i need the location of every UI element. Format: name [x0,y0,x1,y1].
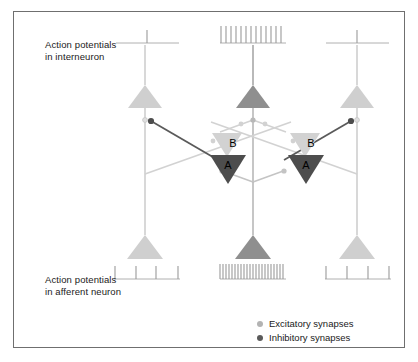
excitatory-dot-icon [257,321,263,327]
legend-item-excitatory: Excitatory synapses [257,318,353,330]
excitatory-synapse-dot-center-left [250,117,255,122]
excitatory-synapse-dot-onto-b-left [211,139,216,144]
excitatory-synapse-dot-center-branch-right [263,122,268,127]
excitatory-synapse-dot-center-branch-left [239,122,244,127]
inhibitory-synapse-dot-right [348,118,354,124]
interneuron-soma-center [236,85,270,108]
figure-frame: B B A A [13,11,405,348]
spike-train-interneuron-center [220,26,286,43]
spike-train-afferent-left [114,266,180,279]
spike-train-interneuron-left [116,30,179,43]
excitatory-link-afferent-center-to-a-right [253,170,286,182]
excitatory-link-center-to-b-left [220,120,253,132]
afferent-soma-left [127,235,163,259]
afferent-soma-right [339,235,375,259]
spike-train-interneuron-right [326,30,389,43]
interneuron-soma-right [340,85,374,108]
legend-item-inhibitory: Inhibitory synapses [257,332,353,344]
cell-b-left-body [212,133,242,157]
afferent-soma-center [235,235,271,259]
excitatory-synapse-dot-right-axon [355,118,360,123]
inhibitory-link-left-to-left-a [151,121,218,160]
spike-train-afferent-center [220,264,286,279]
afferent-row-label: Action potentials in afferent neuron [45,274,121,297]
cell-b-right-label: B [307,137,314,149]
cell-a-right-label: A [302,159,310,171]
inhibitory-synapse-dot-left [148,118,154,124]
interneuron-row-label: Action potentials in interneuron [45,39,116,62]
legend-label-excitatory: Excitatory synapses [269,318,353,330]
spike-train-afferent-right [325,266,391,279]
cell-a-left-label: A [224,159,232,171]
excitatory-synapse-dot-left-axon [143,118,148,123]
excitatory-synapse-dot-onto-a-right [281,168,286,173]
neural-circuit-diagram: B B A A [14,12,406,349]
interneuron-soma-left [128,85,162,108]
legend: Excitatory synapses Inhibitory synapses [257,318,353,344]
legend-label-inhibitory: Inhibitory synapses [269,332,350,344]
inhibitory-dot-icon [257,335,263,341]
figure-root: B B A A [0,0,418,362]
cell-b-left-label: B [229,137,236,149]
